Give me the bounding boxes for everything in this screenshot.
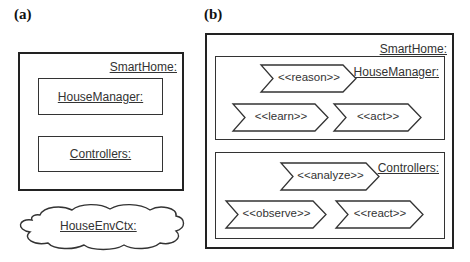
activity-reason: <<reason>> xyxy=(273,71,345,83)
activity-chevrons xyxy=(0,0,470,262)
activity-analyze: <<analyze>> xyxy=(293,169,368,181)
activity-react: <<react>> xyxy=(348,207,412,219)
activity-learn: <<learn>> xyxy=(245,110,317,122)
activity-act: <<act>> xyxy=(346,110,410,122)
activity-observe: <<observe>> xyxy=(238,207,315,219)
